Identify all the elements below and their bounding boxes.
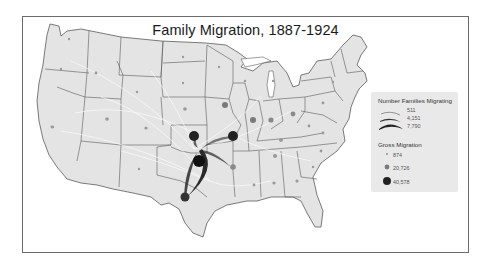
node-michigan: [272, 80, 274, 82]
node-tennessee: [273, 154, 277, 158]
node-ohio: [291, 112, 296, 117]
us-landmass: [37, 24, 367, 237]
legend-flow-value-3: 7,790: [407, 123, 421, 129]
legend-flow-value-2: 4,151: [407, 115, 421, 121]
node-wisconsin: [244, 80, 246, 82]
node-utah: [105, 117, 109, 121]
node-wyoming: [136, 91, 138, 93]
node-washington: [68, 38, 70, 40]
node-kansas: [189, 131, 199, 141]
node-alabama: [272, 181, 275, 184]
legend-flow-title: Number Families Migrating: [378, 97, 452, 104]
node-arkansas: [230, 164, 236, 170]
legend-gross-value-3: 40,578: [393, 179, 410, 185]
node-california: [52, 126, 54, 128]
node-pennsylvania: [322, 102, 325, 105]
node-mississippi: [253, 184, 256, 187]
node-newmexico: [138, 168, 140, 170]
node-westvirginia: [308, 125, 311, 128]
node-scarolina: [312, 166, 314, 168]
legend: Number Families Migrating 511 4,151 7,79…: [371, 92, 458, 192]
lake-michigan: [267, 71, 275, 97]
map-title: Family Migration, 1887-1924: [23, 22, 468, 38]
node-missouri: [228, 131, 238, 141]
legend-gross-title: Gross Migration: [378, 141, 422, 148]
flow-width-icon: [378, 106, 408, 132]
node-iowa: [222, 102, 228, 108]
node-newyork: [332, 81, 334, 83]
node-texas: [181, 193, 190, 202]
node-nebraska: [183, 107, 187, 111]
legend-gross-value-1: 874: [393, 152, 402, 158]
node-illinois: [250, 117, 256, 123]
node-oregon: [60, 68, 62, 70]
legend-flow-value-1: 511: [407, 107, 416, 113]
node-sdakota: [182, 82, 184, 84]
node-colorado: [144, 126, 147, 129]
node-georgia: [295, 179, 298, 182]
node-minnesota: [218, 66, 220, 68]
node-oklahoma: [193, 155, 205, 167]
node-ndakota: [182, 56, 184, 58]
node-indiana: [268, 117, 273, 122]
node-idaho: [95, 72, 98, 75]
node-virginia: [322, 132, 325, 135]
node-ncarolina: [320, 150, 323, 153]
node-kentucky: [279, 138, 283, 142]
legend-gross-value-2: 20,726: [393, 165, 410, 171]
